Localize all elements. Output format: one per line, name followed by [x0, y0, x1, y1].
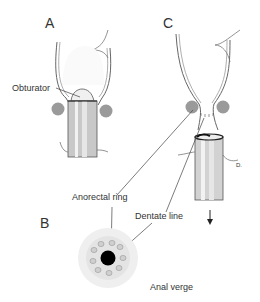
- anorectal-ring-leader-upper: [117, 110, 193, 195]
- panel-c-rectum: [176, 30, 240, 130]
- panel-c-sphincter-right: [217, 101, 230, 114]
- panel-a-sphincter-right: [100, 105, 113, 118]
- anorectal-ring-label: Anorectal ring: [72, 192, 128, 202]
- anal-verge-label: Anal verge: [150, 282, 193, 292]
- signature: D.: [236, 162, 242, 168]
- panel-b-letter: B: [40, 215, 49, 231]
- anoscopy-diagram: A Obturator C D.: [0, 0, 260, 302]
- panel-a-anoscope: [68, 89, 97, 157]
- panel-a-sphincter-left: [52, 103, 65, 116]
- dentate-line-label: Dentate line: [135, 211, 183, 221]
- withdraw-arrow: [207, 210, 213, 225]
- obturator-label: Obturator: [12, 83, 50, 93]
- panel-b-anal-view: [78, 228, 138, 288]
- panel-c-letter: C: [163, 15, 173, 31]
- panel-a-letter: A: [45, 15, 55, 31]
- panel-c-anoscope: [195, 134, 223, 200]
- anal-lumen: [101, 251, 116, 266]
